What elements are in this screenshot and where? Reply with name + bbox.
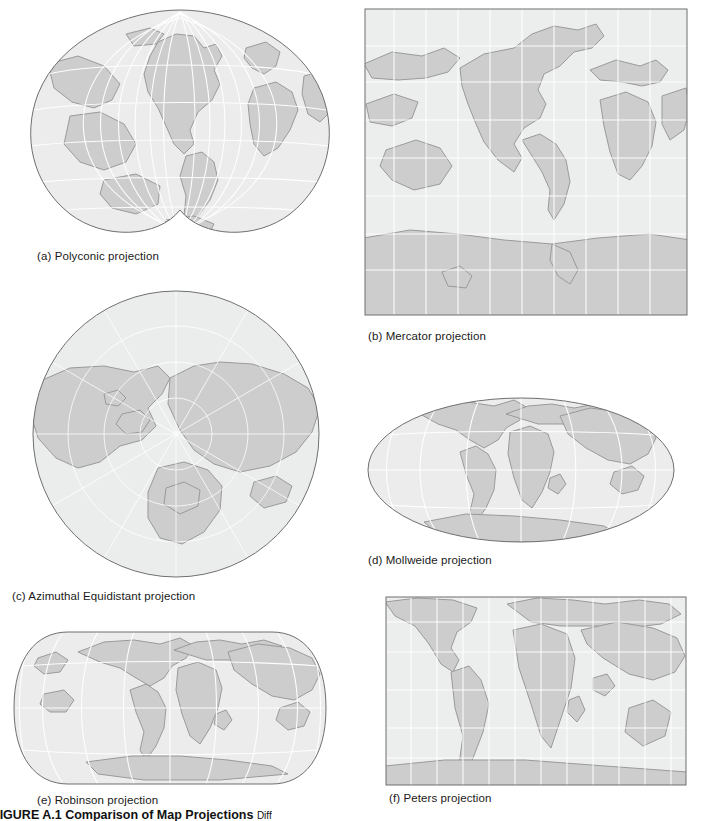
panel-azimuthal: (c) Azimuthal Equidistant projection: [8, 286, 348, 606]
figure-caption: FIGURE A.1 Comparison of Map Projections…: [0, 808, 272, 821]
caption-mollweide: (d) Mollweide projection: [368, 554, 684, 566]
figure-title: Comparison of Map Projections: [65, 808, 253, 821]
caption-azimuthal: (c) Azimuthal Equidistant projection: [12, 590, 348, 602]
caption-peters: (f) Peters projection: [389, 792, 695, 804]
panel-robinson: (e) Robinson projection: [8, 628, 338, 798]
mollweide-map: [364, 396, 678, 548]
caption-mercator: (b) Mercator projection: [368, 330, 694, 342]
azimuthal-map: [8, 286, 344, 584]
mercator-map: [364, 8, 690, 318]
robinson-map: [8, 628, 332, 788]
figure-number: FIGURE A.1: [0, 808, 62, 821]
figure-trailing: Diff: [257, 810, 272, 821]
caption-robinson: (e) Robinson projection: [37, 794, 338, 806]
caption-polyconic: (a) Polyconic projection: [37, 250, 353, 262]
panel-polyconic: (a) Polyconic projection: [8, 4, 353, 264]
polyconic-map: [8, 4, 353, 242]
panel-peters: (f) Peters projection: [385, 596, 695, 806]
panel-mercator: (b) Mercator projection: [364, 8, 694, 338]
peters-map: [385, 596, 687, 786]
panel-mollweide: (d) Mollweide projection: [364, 396, 684, 566]
